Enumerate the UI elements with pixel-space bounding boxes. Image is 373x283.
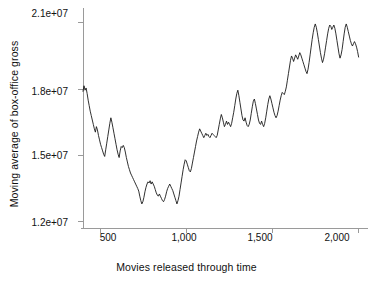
- x-axis-ticks: [100, 228, 358, 233]
- y-axis-ticks: [78, 23, 83, 222]
- data-series-line: [83, 24, 359, 204]
- box-office-moving-average-chart: Moving average of box-office gross Movie…: [0, 0, 373, 283]
- plot-area: [0, 0, 373, 283]
